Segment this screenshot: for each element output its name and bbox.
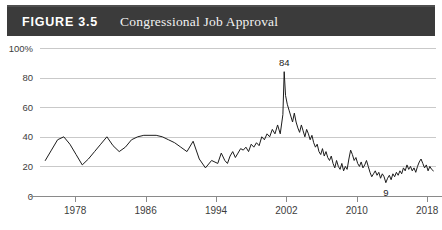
x-tick-label: 1978: [64, 205, 87, 216]
x-tick-label: 1994: [205, 205, 228, 216]
y-tick-label: 40: [22, 131, 33, 142]
x-tick-label: 2010: [346, 205, 369, 216]
gridlines: [40, 49, 436, 167]
x-tick-label: 2018: [416, 205, 439, 216]
chart-plot-area: 020406080100% 197819861994200220102018 8…: [0, 36, 442, 230]
figure-header-band: FIGURE 3.5 Congressional Job Approval: [7, 5, 435, 36]
y-tick-label: 20: [22, 161, 33, 172]
y-axis-tick-labels: 020406080100%: [9, 43, 34, 202]
y-tick-label: 60: [22, 102, 33, 113]
y-tick-label: 100%: [9, 43, 34, 54]
data-point-annotation: 84: [279, 57, 290, 68]
x-axis-tick-labels: 197819861994200220102018: [64, 205, 439, 216]
figure-title: Congressional Job Approval: [120, 14, 278, 30]
line-chart-svg: 020406080100% 197819861994200220102018 8…: [0, 36, 442, 230]
data-point-annotation: 9: [383, 187, 388, 198]
x-tick-label: 2002: [275, 205, 298, 216]
x-axis: [30, 197, 442, 202]
figure-container: FIGURE 3.5 Congressional Job Approval 02…: [0, 0, 442, 230]
y-tick-label: 80: [22, 72, 33, 83]
figure-number-label: FIGURE 3.5: [22, 15, 98, 29]
x-tick-label: 1986: [134, 205, 157, 216]
